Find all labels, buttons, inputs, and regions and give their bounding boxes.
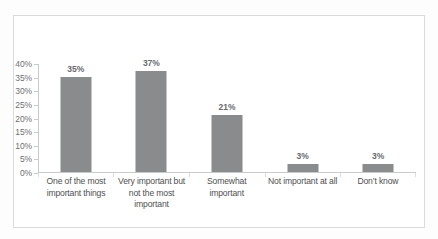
y-axis-label: 25%: [15, 100, 32, 110]
y-axis-label: 5%: [20, 154, 32, 164]
category-label: One of the most important things: [37, 176, 115, 199]
bar-slot: 37%: [114, 64, 190, 172]
y-axis-label: 30%: [15, 86, 32, 96]
y-axis-label: 15%: [15, 127, 32, 137]
plot-area: 40% 35% 30% 25% 20% 15%: [38, 64, 416, 173]
bar[interactable]: 35%: [60, 77, 91, 172]
x-axis-line: [38, 172, 416, 173]
y-axis-label: 20%: [15, 114, 32, 124]
y-axis-label: 10%: [15, 141, 32, 151]
category-label: Don’t know: [341, 176, 414, 188]
bar-value-label: 35%: [67, 64, 84, 74]
y-axis-label: 35%: [15, 73, 32, 83]
y-axis-label: 40%: [15, 59, 32, 69]
category-label: Very important but not the most importan…: [113, 176, 191, 211]
category-label: Not important at all: [265, 176, 341, 188]
scanned-page: 40% 35% 30% 25% 20% 15%: [0, 0, 438, 239]
chart-frame: 40% 35% 30% 25% 20% 15%: [13, 15, 425, 228]
y-axis-label: 0%: [20, 168, 32, 178]
bar-slot: 35%: [38, 64, 114, 172]
bar-value-label: 21%: [218, 102, 235, 112]
bar[interactable]: 21%: [211, 115, 242, 172]
bar[interactable]: 37%: [136, 71, 167, 172]
x-axis-category-labels: One of the most important things Very im…: [38, 176, 416, 228]
bar-slot: 21%: [189, 64, 265, 172]
bar-value-label: 3%: [296, 151, 308, 161]
bar[interactable]: 3%: [287, 164, 318, 172]
bar-slot: 3%: [265, 64, 341, 172]
bar-slot: 3%: [340, 64, 416, 172]
bar-value-label: 3%: [372, 151, 384, 161]
bar[interactable]: 3%: [363, 164, 394, 172]
bar-value-label: 37%: [143, 58, 160, 68]
category-label: Somewhat important: [190, 176, 263, 199]
